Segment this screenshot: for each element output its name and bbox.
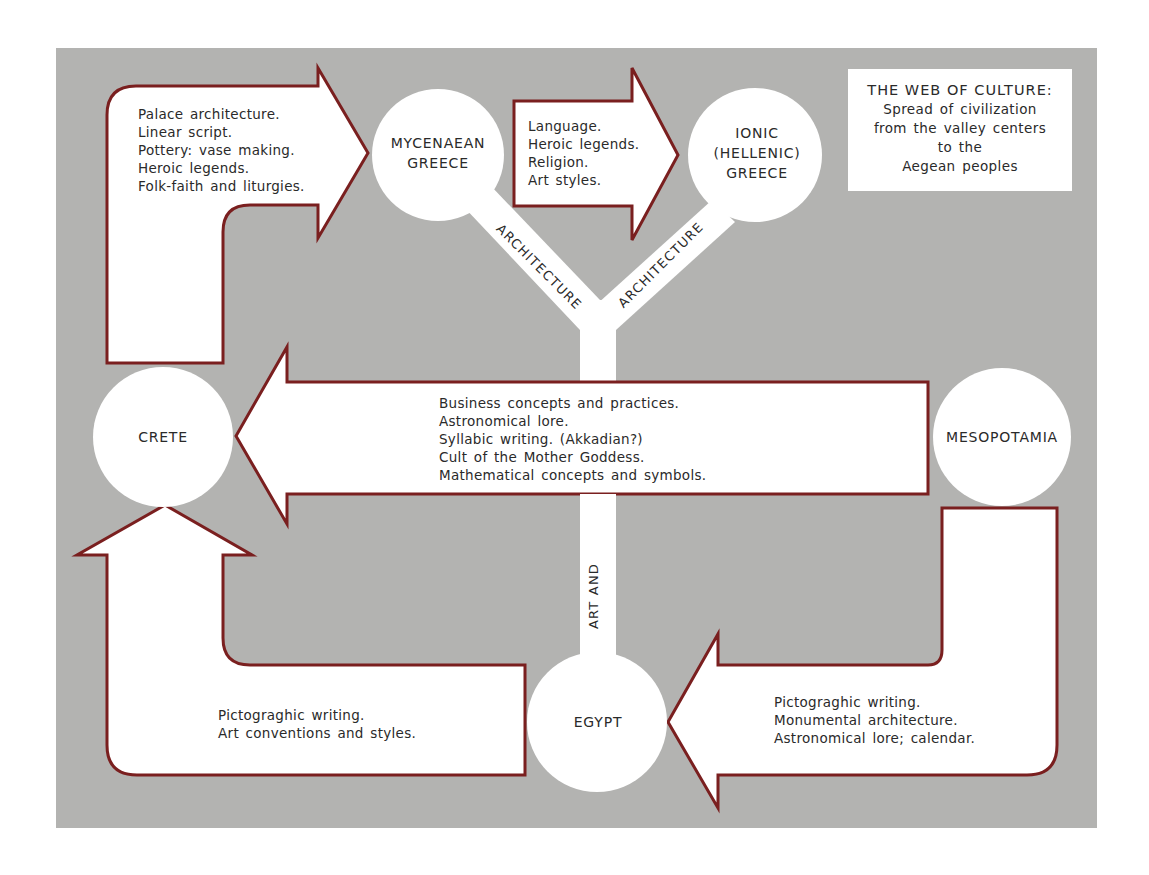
title-line: Aegean peoples	[902, 158, 1018, 174]
flow-item: Astronomical lore.	[439, 413, 569, 429]
title-heading: THE WEB OF CULTURE:	[866, 82, 1052, 98]
flow-item: Cult of the Mother Goddess.	[439, 449, 645, 465]
flow-item: Monumental architecture.	[774, 712, 958, 728]
flow-item: Heroic legends.	[528, 136, 639, 152]
flow-item: Folk-faith and liturgies.	[138, 178, 305, 194]
title-line: to the	[938, 139, 982, 155]
node-label: MESOPOTAMIA	[946, 429, 1058, 445]
title-box: THE WEB OF CULTURE: Spread of civilizati…	[848, 69, 1072, 191]
flow-item: Art conventions and styles.	[218, 725, 416, 741]
flow-item: Heroic legends.	[138, 160, 249, 176]
node-ionic-greece: IONIC (HELLENIC) GREECE	[688, 88, 822, 222]
title-line: Spread of civilization	[883, 101, 1037, 117]
node-label: GREECE	[726, 165, 788, 181]
connector-label-art-and: ART AND	[586, 563, 601, 629]
node-label: EGYPT	[574, 714, 623, 730]
flow-item: Pictograghic writing.	[774, 694, 921, 710]
node-label: (HELLENIC)	[713, 145, 800, 161]
flow-item: Business concepts and practices.	[439, 395, 679, 411]
node-label: MYCENAEAN	[391, 135, 486, 151]
flow-item: Linear script.	[138, 124, 232, 140]
node-label: IONIC	[735, 125, 779, 141]
node-label: CRETE	[138, 429, 188, 445]
flow-item: Pictograghic writing.	[218, 707, 365, 723]
node-crete: CRETE	[93, 367, 233, 507]
flow-item: Language.	[528, 118, 602, 134]
flow-item: Pottery: vase making.	[138, 142, 295, 158]
flow-item: Art styles.	[528, 172, 601, 188]
node-egypt: EGYPT	[527, 652, 667, 792]
flow-item: Palace architecture.	[138, 106, 280, 122]
web-of-culture-diagram: MYCENAEAN GREECE IONIC (HELLENIC) GREECE…	[0, 0, 1149, 875]
flow-crete-to-mycenaean-labels: Palace architecture. Linear script. Pott…	[138, 106, 305, 194]
node-mesopotamia: MESOPOTAMIA	[933, 368, 1071, 506]
node-mycenaean-greece: MYCENAEAN GREECE	[372, 89, 504, 221]
flow-item: Mathematical concepts and symbols.	[439, 467, 706, 483]
title-line: from the valley centers	[874, 120, 1046, 136]
flow-item: Astronomical lore; calendar.	[774, 730, 975, 746]
flow-item: Religion.	[528, 154, 589, 170]
flow-item: Syllabic writing. (Akkadian?)	[439, 431, 643, 447]
node-label: GREECE	[407, 155, 469, 171]
